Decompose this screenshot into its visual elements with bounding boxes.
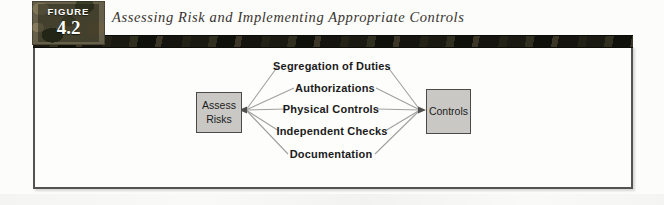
figure-badge-kicker: FIGURE: [32, 6, 105, 17]
assess-risks-node: Assess Risks: [196, 92, 242, 133]
control-label-independent-checks: Independent Checks: [276, 125, 387, 137]
diagram-panel: Assess Risks Controls Segregation of Dut…: [33, 46, 633, 189]
figure-badge: FIGURE 4.2: [32, 1, 105, 45]
header-banner-bar: [33, 35, 633, 48]
control-label-physical-controls: Physical Controls: [283, 103, 379, 115]
controls-node-label: Controls: [429, 105, 468, 118]
scan-noise-strip: [0, 194, 664, 205]
assess-risks-node-label: Assess Risks: [202, 99, 236, 125]
control-label-authorizations: Authorizations: [295, 82, 375, 94]
figure-canvas: FIGURE 4.2 Assessing Risk and Implementi…: [0, 0, 664, 205]
right-arrowhead-icon: [418, 107, 426, 114]
figure-title: Assessing Risk and Implementing Appropri…: [112, 9, 632, 26]
diagram-area: Assess Risks Controls Segregation of Dut…: [35, 48, 631, 187]
figure-badge-number: 4.2: [32, 17, 105, 39]
control-label-documentation: Documentation: [290, 148, 373, 160]
controls-node: Controls: [426, 89, 471, 134]
control-label-segregation-of-duties: Segregation of Duties: [273, 60, 391, 72]
